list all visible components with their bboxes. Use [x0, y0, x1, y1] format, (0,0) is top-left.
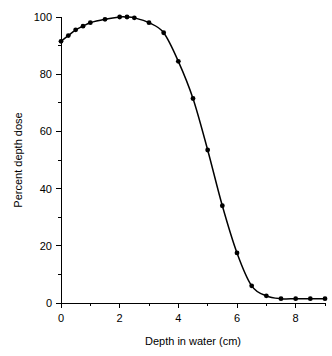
- y-tick-label-80: 80: [40, 68, 52, 80]
- x-tick-label-0: 0: [58, 312, 64, 324]
- x-tick-label-4: 4: [175, 312, 181, 324]
- y-tick-label-60: 60: [40, 125, 52, 137]
- data-point: [235, 251, 240, 256]
- data-point: [117, 15, 122, 20]
- y-axis-title: Percent depth dose: [12, 112, 24, 207]
- data-point: [220, 203, 225, 208]
- data-series-group: [59, 15, 328, 302]
- data-point: [176, 59, 181, 64]
- data-point: [161, 30, 166, 35]
- data-point: [73, 27, 78, 32]
- data-point: [308, 296, 313, 301]
- y-tick-label-40: 40: [40, 183, 52, 195]
- data-point: [88, 20, 93, 25]
- data-point: [125, 15, 130, 20]
- depth-dose-curve: [61, 17, 325, 299]
- y-tick-label-20: 20: [40, 240, 52, 252]
- x-axis-title: Depth in water (cm): [145, 335, 241, 347]
- data-point: [249, 283, 254, 288]
- data-point: [103, 17, 108, 22]
- percent-depth-dose-figure: 020406080100 02468 Depth in water (cm) P…: [0, 0, 332, 356]
- data-point: [264, 293, 269, 298]
- data-point: [293, 296, 298, 301]
- data-point: [66, 33, 71, 38]
- data-point: [81, 24, 86, 29]
- y-axis: 020406080100: [34, 11, 61, 309]
- data-point: [132, 15, 137, 20]
- data-point: [323, 296, 328, 301]
- chart-canvas: 020406080100 02468 Depth in water (cm) P…: [0, 0, 332, 356]
- data-point: [147, 20, 152, 25]
- y-tick-label-100: 100: [34, 11, 52, 23]
- depth-dose-markers: [59, 15, 328, 302]
- x-tick-label-6: 6: [234, 312, 240, 324]
- data-point: [59, 39, 64, 44]
- x-axis-tick-labels: 02468: [58, 312, 299, 324]
- data-point: [191, 96, 196, 101]
- x-tick-label-8: 8: [293, 312, 299, 324]
- x-tick-label-2: 2: [117, 312, 123, 324]
- y-axis-tick-labels: 020406080100: [34, 11, 52, 309]
- x-axis-major-ticks: [61, 303, 296, 308]
- data-point: [205, 148, 210, 153]
- y-tick-label-0: 0: [46, 297, 52, 309]
- x-axis: 02468: [58, 303, 325, 324]
- data-point: [279, 296, 284, 301]
